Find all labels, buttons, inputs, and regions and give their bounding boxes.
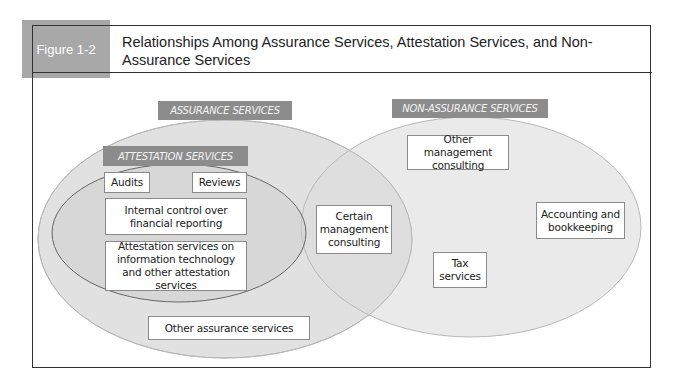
other-assurance-box: Other assurance services [148,316,310,340]
figure-label: Figure 1-2 [22,20,110,78]
certain-management-consulting-box: Certain management consulting [316,205,392,254]
audits-box: Audits [104,172,150,193]
other-management-consulting-box: Other management consulting [407,135,509,170]
tax-services-box: Tax services [433,252,487,288]
internal-control-box: Internal control over financial reportin… [105,198,247,235]
assurance-services-label: ASSURANCE SERVICES [158,101,292,120]
attestation-services-label: ATTESTATION SERVICES [103,146,248,166]
it-attestation-box: Attestation services on information tech… [105,241,247,291]
accounting-bookkeeping-box: Accounting and bookkeeping [536,202,625,239]
non-assurance-services-label: NON-ASSURANCE SERVICES [392,99,548,118]
reviews-box: Reviews [192,172,247,193]
